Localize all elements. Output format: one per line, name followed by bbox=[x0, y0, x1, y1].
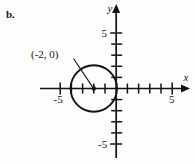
y-axis-label: y bbox=[107, 2, 113, 14]
x-tick-label-neg-5: -5 bbox=[54, 93, 64, 105]
x-tick-label-pos-5: 5 bbox=[169, 93, 175, 105]
y-tick-label-neg-5: -5 bbox=[98, 138, 108, 150]
y-axis-arrowhead-icon bbox=[112, 4, 120, 13]
center-point-label: (-2, 0) bbox=[31, 48, 59, 61]
y-tick-label-pos-5: 5 bbox=[102, 27, 108, 39]
graph-figure: b. bbox=[0, 0, 195, 164]
coordinate-plane-svg: x y -5 5 5 -5 (-2, 0) bbox=[0, 0, 195, 164]
x-axis-arrowhead-icon bbox=[181, 85, 190, 93]
x-axis-label: x bbox=[183, 71, 189, 83]
